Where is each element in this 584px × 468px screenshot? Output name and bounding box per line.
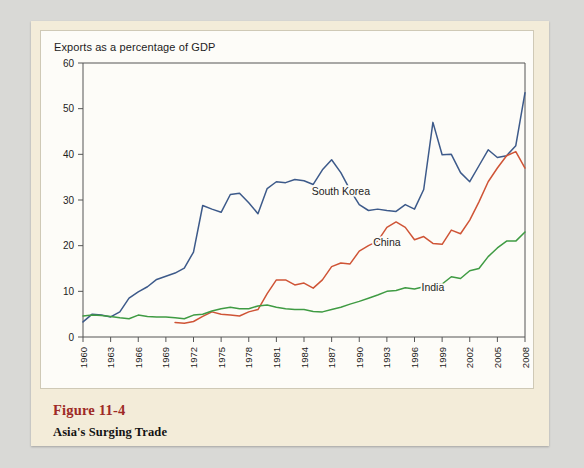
x-tick-label: 1987 xyxy=(326,347,337,368)
series-line-south-korea xyxy=(83,93,525,322)
x-tick-label: 1969 xyxy=(160,347,171,368)
figure-caption: Asia's Surging Trade xyxy=(53,425,513,440)
x-tick-label: 1966 xyxy=(133,347,144,368)
x-tick-label: 2008 xyxy=(520,347,531,368)
caption-block: Figure 11-4 Asia's Surging Trade xyxy=(53,402,513,440)
series-label-india: India xyxy=(422,281,445,293)
x-tick-label: 1990 xyxy=(354,347,365,368)
figure-panel: Exports as a percentage of GDP 010203040… xyxy=(31,21,549,446)
y-tick-label: 0 xyxy=(68,332,74,343)
series-label-south-korea: South Korea xyxy=(312,185,371,197)
y-tick-label: 20 xyxy=(63,240,75,251)
plot-area: 0102030405060196019631966196919721975197… xyxy=(41,31,535,390)
x-tick-label: 1993 xyxy=(381,347,392,368)
x-tick-label: 1981 xyxy=(271,347,282,368)
y-tick-label: 30 xyxy=(63,195,75,206)
x-tick-label: 2002 xyxy=(464,347,475,368)
x-tick-label: 1963 xyxy=(105,347,116,368)
x-tick-label: 1960 xyxy=(78,347,89,368)
x-tick-label: 1978 xyxy=(243,347,254,368)
x-tick-label: 1984 xyxy=(299,347,310,368)
x-tick-label: 1996 xyxy=(409,347,420,368)
y-tick-label: 50 xyxy=(63,103,75,114)
y-tick-label: 60 xyxy=(63,58,75,69)
x-tick-label: 2005 xyxy=(492,347,503,368)
x-tick-label: 1975 xyxy=(216,347,227,368)
chart-card: Exports as a percentage of GDP 010203040… xyxy=(40,30,534,389)
y-tick-label: 10 xyxy=(63,286,75,297)
line-chart-svg: 0102030405060196019631966196919721975197… xyxy=(41,31,535,390)
x-tick-label: 1999 xyxy=(437,347,448,368)
x-tick-label: 1972 xyxy=(188,347,199,368)
y-tick-label: 40 xyxy=(63,149,75,160)
series-label-china: China xyxy=(373,236,401,248)
figure-number: Figure 11-4 xyxy=(53,402,513,419)
series-line-india xyxy=(83,232,525,319)
